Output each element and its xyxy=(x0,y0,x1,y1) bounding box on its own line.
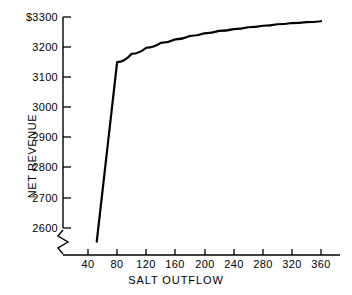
x-tick-label-200: 200 xyxy=(195,258,214,270)
x-tick-label-280: 280 xyxy=(253,258,272,270)
x-tick-marks xyxy=(88,249,321,255)
y-tick-label-3300: $3300 xyxy=(0,11,58,23)
x-tick-label-40: 40 xyxy=(82,258,95,270)
data-series-line xyxy=(97,21,321,241)
x-axis-title: SALT OUTFLOW xyxy=(0,274,352,286)
x-tick-label-160: 160 xyxy=(165,258,184,270)
y-tick-label-3100: 3100 xyxy=(0,71,58,83)
x-tick-label-240: 240 xyxy=(224,258,243,270)
x-tick-label-320: 320 xyxy=(282,258,301,270)
y-axis-title: NET REVENUE xyxy=(26,96,38,216)
y-tick-label-3200: 3200 xyxy=(0,41,58,53)
chart-figure: $3300 3200 3100 3000 2900 2800 2700 2600… xyxy=(0,0,352,295)
x-tick-label-80: 80 xyxy=(111,258,124,270)
y-axis-break-icon xyxy=(58,230,68,254)
x-tick-label-360: 360 xyxy=(311,258,330,270)
y-tick-marks xyxy=(63,17,71,228)
x-tick-label-120: 120 xyxy=(136,258,155,270)
y-tick-label-2600: 2600 xyxy=(0,222,58,234)
